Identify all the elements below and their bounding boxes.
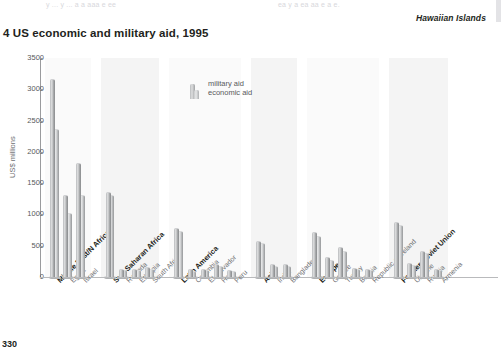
bar-military-aid	[312, 232, 317, 277]
bar-pair	[63, 58, 73, 277]
legend-label-military-aid: military aid	[208, 79, 244, 88]
bar-pair	[76, 58, 86, 277]
bar-pair	[106, 58, 116, 277]
page-number: 330	[2, 339, 17, 349]
bar-pair	[420, 58, 430, 277]
y-axis-label: US$ millions	[8, 136, 17, 178]
bar-military-aid	[50, 79, 55, 277]
chart-title: 4 US economic and military aid, 1995	[3, 27, 209, 39]
x-axis-labels: Middle East/N AfricaEgyptIsraelSub-Sahar…	[40, 279, 502, 349]
bar-military-aid	[283, 264, 288, 277]
bar-military-aid	[420, 251, 425, 277]
bar-pair	[325, 58, 335, 277]
running-text-top: y ... y ... a a aaa e ee ea y a ea aa e …	[0, 1, 502, 10]
bar-military-aid	[256, 241, 261, 277]
bar-military-aid	[174, 228, 179, 277]
bar-military-aid	[214, 264, 219, 277]
bar-pair	[352, 58, 362, 277]
bar-military-aid	[63, 195, 68, 277]
bar-pair	[365, 58, 375, 277]
running-text-right: ea y a ea aa e a e.	[278, 1, 340, 8]
y-tick-label: 1500	[10, 179, 44, 187]
bar-military-aid	[352, 268, 357, 277]
bar-pair	[312, 58, 322, 277]
bar-pair	[394, 58, 404, 277]
bar-military-aid	[145, 267, 150, 277]
bar-pair	[283, 58, 293, 277]
legend-label-economic-aid: economic aid	[208, 88, 252, 97]
bar-pair	[256, 58, 266, 277]
y-tick-label: 2500	[10, 117, 44, 125]
bar-military-aid	[227, 270, 232, 277]
page-edge-marker	[496, 0, 501, 22]
bar-pair	[174, 58, 184, 277]
y-tick-label: 500	[10, 242, 44, 250]
bar-pair	[270, 58, 280, 277]
bar-military-aid	[76, 163, 81, 277]
map-caption-hawaiian-islands: Hawaiian Islands	[416, 13, 486, 23]
bar-military-aid	[132, 269, 137, 277]
bar-military-aid	[325, 257, 330, 277]
bar-military-aid	[434, 269, 439, 278]
running-text-left: y ... y ... a a aaa e ee	[46, 1, 116, 8]
bar-military-aid	[201, 269, 206, 277]
bar-military-aid	[106, 192, 111, 277]
bar-pair	[50, 58, 60, 277]
bar-pair	[119, 58, 129, 277]
legend-swatch	[190, 81, 202, 99]
legend-swatch-economic-aid	[194, 90, 199, 99]
y-tick-label: 3000	[10, 85, 44, 93]
bar-series-container	[40, 58, 498, 277]
bar-pair	[338, 58, 348, 277]
figure-page: y ... y ... a a aaa e ee ea y a ea aa e …	[0, 0, 502, 351]
y-tick-label: 2000	[10, 148, 44, 156]
bar-military-aid	[270, 264, 275, 277]
bar-military-aid	[365, 269, 370, 277]
y-tick-label: 3500	[10, 54, 44, 62]
y-tick-label: 1000	[10, 210, 44, 218]
bar-military-aid	[394, 222, 399, 277]
bar-military-aid	[188, 269, 193, 277]
bar-military-aid	[407, 263, 412, 277]
y-tick-label: 0	[10, 273, 44, 281]
bar-military-aid	[119, 269, 124, 277]
bar-military-aid	[338, 247, 343, 277]
bar-pair	[132, 58, 142, 277]
